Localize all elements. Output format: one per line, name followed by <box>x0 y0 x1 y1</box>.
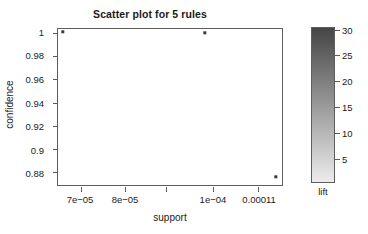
colorbar-tick-label: 10 <box>342 127 353 138</box>
x-tick-label: 1e−04 <box>200 194 227 205</box>
colorbar-tick-label: 25 <box>342 49 353 60</box>
y-tick-label: 1 <box>39 26 44 37</box>
y-tick-mark <box>53 172 58 173</box>
y-axis-title: confidence <box>4 60 15 150</box>
x-axis-title: support <box>57 212 283 223</box>
x-tick-mark <box>81 187 82 192</box>
x-tick-mark <box>125 187 126 192</box>
lift-colorbar <box>311 27 335 183</box>
x-axis-tick-labels: 7e−058e−051e−040.00011 <box>57 194 283 208</box>
y-tick-mark <box>53 126 58 127</box>
x-tick-mark <box>166 187 167 192</box>
x-tick-label: 8e−05 <box>112 194 139 205</box>
colorbar-tick-label: 5 <box>342 153 347 164</box>
data-point <box>203 31 206 34</box>
colorbar-tick-mark <box>335 133 340 134</box>
x-tick-mark <box>258 187 259 192</box>
colorbar-tick-mark <box>335 159 340 160</box>
y-tick-label: 0.96 <box>26 74 45 85</box>
plot-panel <box>57 28 283 186</box>
y-tick-mark <box>53 79 58 80</box>
colorbar-gradient <box>312 28 334 182</box>
x-tick-label: 7e−05 <box>67 194 94 205</box>
y-tick-mark <box>53 103 58 104</box>
y-tick-label: 0.98 <box>26 50 45 61</box>
x-tick-label: 0.00011 <box>242 194 276 205</box>
colorbar-tick-mark <box>335 30 340 31</box>
colorbar-title: lift <box>305 186 341 197</box>
y-tick-label: 0.92 <box>26 121 45 132</box>
colorbar-tick-mark <box>335 81 340 82</box>
colorbar-tick-label: 20 <box>342 75 353 86</box>
y-tick-label: 0.9 <box>31 144 44 155</box>
y-tick-mark <box>53 56 58 57</box>
chart-title: Scatter plot for 5 rules <box>0 8 300 20</box>
colorbar-tick-label: 30 <box>342 24 353 35</box>
colorbar-tick-mark <box>335 107 340 108</box>
y-tick-mark <box>53 33 58 34</box>
y-tick-mark <box>53 149 58 150</box>
y-tick-label: 0.94 <box>26 97 45 108</box>
y-tick-label: 0.88 <box>26 168 45 179</box>
colorbar-tick-mark <box>335 55 340 56</box>
colorbar-tick-label: 15 <box>342 102 353 113</box>
scatter-plot-figure: Scatter plot for 5 rules 10.980.960.940.… <box>0 0 368 234</box>
data-point <box>274 175 277 178</box>
x-tick-mark <box>213 187 214 192</box>
data-point <box>61 30 64 33</box>
